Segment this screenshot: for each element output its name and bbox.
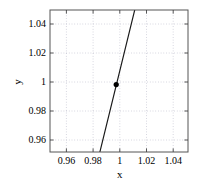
data-point-marker — [114, 82, 119, 87]
y-tick-label-0.98: 0.98 — [0, 106, 46, 116]
x-tick-label-1.04: 1.04 — [164, 156, 182, 166]
y-tick-label-1.04: 1.04 — [0, 19, 46, 29]
plot-background — [50, 10, 188, 152]
x-tick-label-1.02: 1.02 — [138, 156, 156, 166]
x-tick-label-0.98: 0.98 — [84, 156, 102, 166]
x-axis-title: x — [117, 169, 123, 180]
y-tick-label-1: 1 — [0, 77, 46, 87]
x-tick-label-1: 1 — [117, 156, 122, 166]
y-axis-title: y — [12, 79, 23, 85]
y-tick-label-1.02: 1.02 — [0, 48, 46, 58]
y-tick-label-0.96: 0.96 — [0, 135, 46, 145]
x-tick-label-0.96: 0.96 — [58, 156, 76, 166]
chart-figure: 1.04 1.02 1 0.98 0.96 0.96 0.98 1 1.02 1… — [0, 0, 201, 184]
